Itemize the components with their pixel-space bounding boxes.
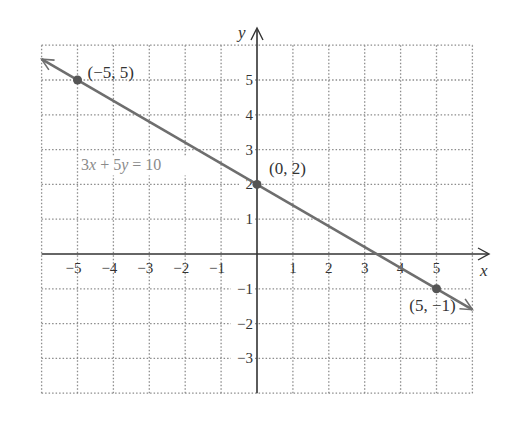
y-tick-label: −3 xyxy=(237,350,253,366)
data-point xyxy=(73,76,82,85)
x-tick-label: 5 xyxy=(433,260,441,276)
x-tick-label: −1 xyxy=(209,260,225,276)
point-label: (5, −1) xyxy=(409,296,455,315)
annotations: 3x + 5y = 10 xyxy=(79,156,201,175)
y-tick-label: 3 xyxy=(246,142,254,158)
point-label: (0, 2) xyxy=(269,159,306,178)
y-tick-label: 5 xyxy=(246,72,254,88)
y-axis-label: y xyxy=(236,23,246,42)
tick-labels: −5−4−3−2−112345−3−2−112345 xyxy=(66,72,441,366)
x-tick-label: 3 xyxy=(361,260,369,276)
data-point xyxy=(432,284,441,293)
x-tick-label: −3 xyxy=(137,260,153,276)
y-tick-label: −2 xyxy=(237,316,253,332)
point-label: (−5, 5) xyxy=(88,63,134,82)
x-tick-label: −4 xyxy=(101,260,117,276)
data-point xyxy=(253,180,262,189)
x-tick-label: −5 xyxy=(66,260,82,276)
x-tick-label: −2 xyxy=(173,260,189,276)
x-axis-label: x xyxy=(479,261,488,280)
y-tick-label: 4 xyxy=(246,107,254,123)
line-graph: xy −5−4−3−2−112345−3−2−112345 (−5, 5)(0,… xyxy=(0,0,517,426)
y-tick-label: 1 xyxy=(246,211,254,227)
equation-label: 3x + 5y = 10 xyxy=(81,156,161,174)
y-tick-label: −1 xyxy=(237,281,253,297)
x-tick-label: 1 xyxy=(289,260,297,276)
x-tick-label: 2 xyxy=(325,260,333,276)
